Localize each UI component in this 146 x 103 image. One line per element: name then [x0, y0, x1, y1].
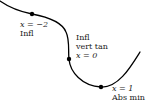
function-graph-diagram: x = −2 Infl Infl vert tan x = 0 x = 1 Ab… [0, 0, 146, 103]
abs-min-point-x-1 [99, 85, 103, 89]
function-curve [0, 1, 140, 87]
x-1-equation: x = 1 [112, 84, 145, 93]
inflection-point-x-neg2 [30, 12, 34, 16]
x-neg2-annotation: x = −2 Infl [20, 20, 48, 38]
x-0-inflection-label: Infl [76, 33, 108, 42]
x-0-equation: x = 0 [76, 51, 108, 60]
x-0-annotation: Infl vert tan x = 0 [76, 33, 108, 60]
x-neg2-inflection-label: Infl [20, 29, 48, 38]
x-1-abs-min-label: Abs min [112, 93, 145, 102]
inflection-vert-tan-point-x-0 [67, 57, 71, 61]
x-1-annotation: x = 1 Abs min [112, 84, 145, 102]
x-neg2-equation: x = −2 [20, 20, 48, 29]
x-0-vert-tan-label: vert tan [76, 42, 108, 51]
